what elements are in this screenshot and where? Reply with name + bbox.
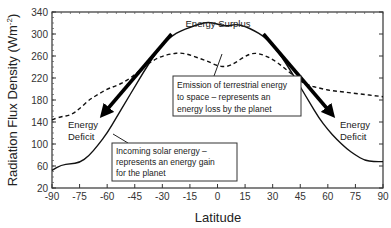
radiation-flux-chart: 2060100140180220260300340 -90-75-60-45-3…: [0, 0, 391, 228]
x-tick-label: -90: [45, 191, 60, 202]
x-tick-label: 75: [350, 191, 362, 202]
x-tick-label: 30: [267, 191, 279, 202]
x-tick-label: -75: [72, 191, 87, 202]
x-tick-label: 15: [240, 191, 252, 202]
y-tick-label: 300: [31, 29, 48, 40]
energy-deficit-left-label: Energy Deficit: [68, 119, 101, 142]
x-tick-label: 45: [295, 191, 307, 202]
x-tick-label: -30: [155, 191, 170, 202]
x-tick-label: -15: [183, 191, 198, 202]
incoming-callout-leader: [113, 134, 128, 143]
y-tick-label: 60: [37, 161, 49, 172]
energy-deficit-right-label: Energy Deficit: [340, 119, 373, 142]
y-axis-title: Radiation Flux Density (Wm-2): [5, 14, 20, 187]
y-tick-label: 260: [31, 51, 48, 62]
x-axis-title: Latitude: [195, 210, 241, 225]
y-tick-label: 100: [31, 139, 48, 150]
y-tick-label: 220: [31, 73, 48, 84]
x-axis-ticks: -90-75-60-45-30-150153045607590: [45, 184, 389, 202]
y-tick-label: 180: [31, 95, 48, 106]
x-tick-label: -45: [128, 191, 143, 202]
x-tick-label: 0: [215, 191, 221, 202]
x-tick-label: -60: [100, 191, 115, 202]
poleward-arrow-south-icon: [103, 34, 171, 114]
y-tick-label: 340: [31, 7, 48, 18]
energy-surplus-label: Energy Surplus: [186, 18, 251, 29]
x-tick-label: 90: [377, 191, 389, 202]
x-tick-label: 60: [322, 191, 334, 202]
y-tick-label: 140: [31, 117, 48, 128]
